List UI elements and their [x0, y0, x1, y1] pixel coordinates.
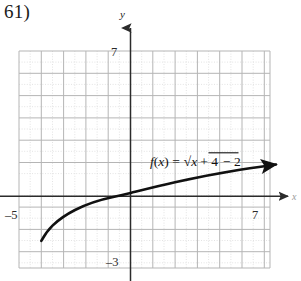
svg-text:f(x) =√x+ 4− 2: f(x) =√x+ 4− 2 — [150, 154, 241, 169]
function-equation-label: f(x) =√x+ 4− 2 — [150, 153, 241, 169]
axes — [0, 28, 288, 281]
x-axis-name-label: x — [291, 191, 297, 202]
y-axis-tick-label-bottom: –3 — [105, 255, 119, 269]
fn-radicand-variable: x — [190, 154, 197, 169]
coordinate-plane-graph: y x 7 –3 –5 7 f(x) =√x+ 4− 2 — [0, 0, 301, 281]
x-axis-tick-label-left: –5 — [4, 208, 18, 222]
problem-figure: 61) — [0, 0, 301, 281]
y-axis-name-label: y — [119, 8, 125, 20]
fn-close-paren-equals: ) = — [164, 154, 179, 169]
fn-variable: x — [157, 154, 164, 169]
fn-tail-minus-two: − 2 — [223, 154, 241, 169]
x-axis-tick-label-right: 7 — [252, 208, 258, 222]
fn-radicand-plus-four: + 4 — [200, 154, 218, 169]
y-axis-tick-label-top: 7 — [111, 45, 117, 59]
